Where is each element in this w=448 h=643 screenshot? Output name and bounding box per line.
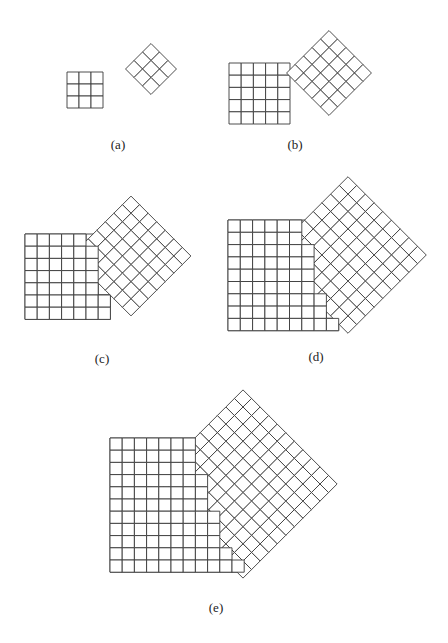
panel-label-c: (c) — [95, 351, 109, 367]
panel-a — [67, 44, 176, 108]
panel-label-e: (e) — [209, 600, 223, 616]
figure-canvas — [0, 0, 448, 643]
panel-e — [110, 390, 337, 578]
panel-label-a: (a) — [111, 137, 125, 153]
diamond-grid-a — [126, 44, 177, 95]
panel-b — [229, 31, 371, 124]
panel-c — [25, 196, 191, 319]
diamond-grid-b — [287, 31, 372, 116]
square-grid-b — [229, 63, 290, 124]
panel-label-d: (d) — [308, 349, 323, 365]
square-front-cells-c — [25, 234, 110, 319]
panel-d — [228, 177, 426, 334]
square-grid-a — [67, 72, 103, 108]
panel-label-b: (b) — [287, 137, 302, 153]
